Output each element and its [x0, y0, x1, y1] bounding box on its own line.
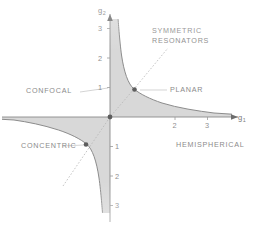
y-tick-label-3: 3 — [98, 24, 102, 33]
annotation-confocal: CONFOCAL — [26, 86, 72, 96]
annotation-planar: PLANAR — [170, 85, 203, 95]
y-axis-arrow-icon — [107, 14, 113, 21]
y-tick-label-2: 2 — [98, 54, 102, 63]
y-axis-label: g2 — [98, 6, 105, 15]
origin-marker — [108, 115, 113, 120]
x-tick-label-2: 2 — [173, 121, 177, 130]
y-tick-label-neg-1: 1 — [115, 142, 119, 151]
y-tick-label-1: 1 — [98, 83, 102, 92]
x-tick-label-3: 3 — [205, 121, 209, 130]
stability-diagram-figure: g2 g1 3 2 1 1 2 3 2 3 SYMMETRIC RESONATO… — [0, 0, 261, 232]
annotation-hemispherical: HEMISPHERICAL — [176, 140, 244, 150]
x-axis-arrow-icon — [231, 114, 238, 120]
symmetric-resonators-line-1: SYMMETRIC — [152, 26, 209, 36]
annotation-symmetric-resonators: SYMMETRIC RESONATORS — [152, 26, 209, 45]
annotation-concentric: CONCENTRIC — [21, 141, 76, 151]
stable-region-quadrant-3 — [2, 117, 110, 213]
concentric-marker — [84, 142, 89, 147]
confocal-leader-line — [80, 88, 108, 92]
stability-plot-svg — [0, 0, 261, 232]
y-tick-label-neg-2: 2 — [115, 172, 119, 181]
y-tick-label-neg-3: 3 — [115, 201, 119, 210]
symmetric-resonators-line-2: RESONATORS — [152, 36, 209, 46]
x-axis-label: g1 — [238, 113, 245, 122]
planar-confocal-marker — [132, 87, 137, 92]
